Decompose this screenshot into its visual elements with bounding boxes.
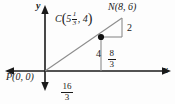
point-n-label: N(8, 6) <box>108 2 136 12</box>
segment-label-height-4: 4 <box>96 49 101 59</box>
segment-label-rise-2: 2 <box>127 23 132 33</box>
point-p-label: P(0, 0) <box>6 72 34 82</box>
point-c-marker <box>98 34 104 40</box>
eight-thirds-fraction: 8 3 <box>108 49 116 70</box>
point-c-x-whole: 5 <box>66 13 71 24</box>
geometry-diagram: y x C(513, 4) N(8, 6) P(0, 0) 2 4 8 3 16… <box>0 0 175 104</box>
y-axis-arrow-up <box>41 5 48 14</box>
point-c-close-paren: ) <box>88 11 93 26</box>
point-n-suffix: ) <box>133 1 136 12</box>
y-axis <box>41 5 48 91</box>
point-c-name: C <box>55 13 62 24</box>
sixteen-thirds-denominator: 3 <box>63 93 71 103</box>
y-axis-arrow-down <box>41 82 48 91</box>
point-c-open-paren: ( <box>62 11 67 26</box>
sixteen-thirds-fraction: 16 3 <box>61 82 73 103</box>
segment-label-run-eight-thirds: 8 3 <box>108 43 116 70</box>
point-c-label: C(513, 4) <box>55 11 93 28</box>
eight-thirds-denominator: 3 <box>108 60 116 70</box>
point-c-x-denominator: 3 <box>72 20 78 27</box>
x-axis-label: x <box>163 65 168 75</box>
point-c-x-fraction: 13 <box>72 11 78 27</box>
segment-label-sixteen-thirds: 16 3 <box>61 76 73 103</box>
y-axis-label: y <box>36 1 40 11</box>
point-p-suffix: ) <box>30 71 33 82</box>
point-n-prefix: N( <box>108 1 118 12</box>
